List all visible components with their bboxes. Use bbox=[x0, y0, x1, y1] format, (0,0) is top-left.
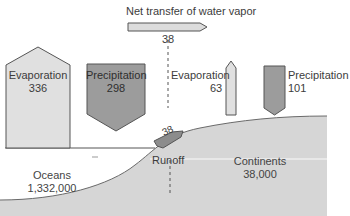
ocean-precipitation-label: Precipitation bbox=[86, 69, 146, 82]
net-transfer-value: 38 bbox=[155, 33, 181, 46]
land-precipitation-value: 101 bbox=[288, 82, 306, 95]
oceans-value: 1,332,000 bbox=[22, 182, 82, 195]
land-precipitation-label: Precipitation bbox=[288, 69, 349, 82]
ocean-evaporation-value: 336 bbox=[6, 82, 70, 95]
land-precipitation-arrow bbox=[264, 66, 285, 115]
ocean-evaporation-label: Evaporation bbox=[6, 69, 70, 82]
ocean-evaporation-arrow bbox=[6, 47, 70, 148]
net-transfer-title: Net transfer of water vapor bbox=[126, 5, 256, 18]
continents-label: Continents bbox=[230, 155, 290, 168]
land-evaporation-label: Evaporation bbox=[171, 69, 230, 82]
ocean-precipitation-value: 298 bbox=[86, 82, 146, 95]
net-transfer-arrow bbox=[128, 23, 207, 31]
oceans-label: Oceans bbox=[22, 169, 82, 182]
continents-value: 38,000 bbox=[230, 168, 290, 181]
runoff-label: Runoff bbox=[152, 154, 184, 167]
land-evaporation-value: 63 bbox=[210, 82, 222, 95]
